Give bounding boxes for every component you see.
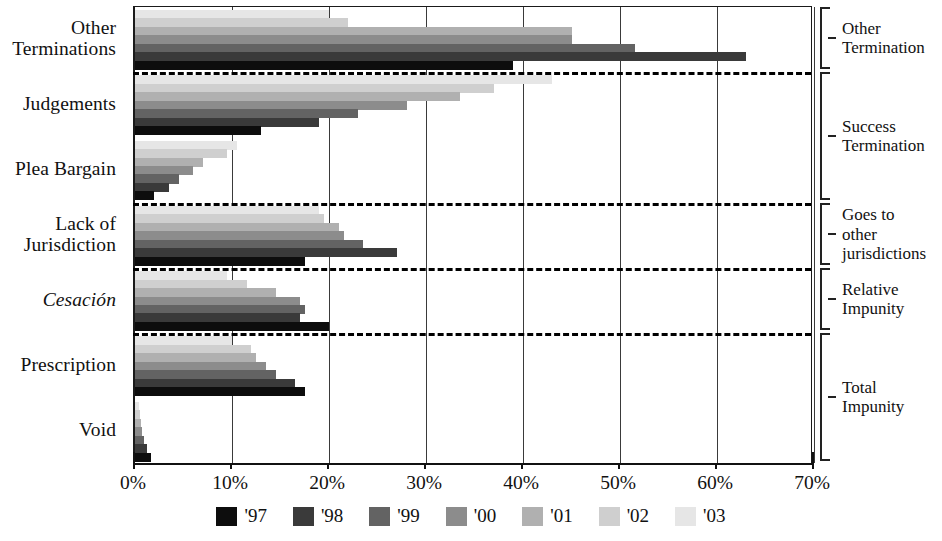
x-axis-line (133, 463, 814, 465)
legend-label: '98 (321, 505, 343, 527)
legend-item: '01 (522, 505, 572, 527)
x-axis-endcap (133, 452, 135, 465)
outcome-group: Other Termination (820, 7, 942, 69)
bar-group (135, 336, 811, 395)
x-tick-label: 50% (583, 472, 653, 494)
legend-item: '02 (599, 505, 649, 527)
outcome-group-label: Relative Impunity (842, 280, 904, 318)
x-tick (327, 463, 329, 469)
bracket-tick-icon (828, 37, 836, 39)
legend-swatch (599, 507, 620, 526)
bar-group (135, 141, 811, 200)
outcome-group-label: Goes to other jurisdictions (842, 205, 926, 262)
legend-swatch (293, 507, 314, 526)
outcome-group: Success Termination (820, 72, 942, 200)
legend-item: '03 (675, 505, 725, 527)
category-axis-labels: Other TerminationsJudgementsPlea Bargain… (0, 0, 124, 463)
bar-group (135, 271, 811, 330)
outcome-group: Relative Impunity (820, 268, 942, 330)
bar (135, 191, 154, 200)
x-tick-label: 60% (680, 472, 750, 494)
x-tick-label: 30% (389, 472, 459, 494)
bar (135, 257, 305, 266)
x-tick (715, 463, 717, 469)
bar-group (135, 10, 811, 69)
legend-swatch (216, 507, 237, 526)
x-tick-label: 70% (777, 472, 847, 494)
bar (135, 126, 261, 135)
legend-label: '02 (627, 505, 649, 527)
legend-item: '00 (446, 505, 496, 527)
bar (135, 387, 305, 396)
legend-label: '03 (703, 505, 725, 527)
bar (135, 61, 513, 70)
legend-label: '01 (550, 505, 572, 527)
bracket-tick-icon (828, 135, 836, 137)
bracket-tick-icon (828, 298, 836, 300)
x-tick-label: 10% (195, 472, 265, 494)
legend-label: '00 (474, 505, 496, 527)
legend-label: '97 (244, 505, 266, 527)
outcome-group: Total Impunity (820, 333, 942, 461)
plot-inner (135, 7, 811, 463)
outcome-group-label: Other Termination (842, 19, 925, 57)
legend-swatch (446, 507, 467, 526)
bracket-tick-icon (828, 233, 836, 235)
bracket-tick-icon (828, 396, 836, 398)
gridline-70 (814, 7, 815, 463)
plot-area (133, 6, 812, 463)
x-tick-label: 0% (98, 472, 168, 494)
bar-group (135, 206, 811, 265)
x-axis-endcap (812, 452, 814, 465)
category-label: Cesación (43, 289, 116, 311)
outcome-group-label: Total Impunity (842, 378, 904, 416)
x-tick-label: 40% (486, 472, 556, 494)
category-label: Prescription (21, 354, 116, 376)
outcome-group: Goes to other jurisdictions (820, 203, 942, 265)
category-label: Void (79, 419, 116, 441)
bar-group (135, 402, 811, 461)
category-label: Other Terminations (12, 17, 116, 61)
outcome-group-brackets: Other TerminationSuccess TerminationGoes… (820, 0, 942, 466)
x-tick (618, 463, 620, 469)
legend-swatch (522, 507, 543, 526)
legend-item: '98 (293, 505, 343, 527)
legend: '97'98'99'00'01'02'03 (0, 505, 942, 527)
legend-item: '99 (369, 505, 419, 527)
legend-label: '99 (397, 505, 419, 527)
x-tick-label: 20% (292, 472, 362, 494)
outcome-group-label: Success Termination (842, 117, 925, 155)
bar (135, 453, 151, 462)
bar (135, 322, 329, 331)
bar-chart: Other TerminationsJudgementsPlea Bargain… (0, 0, 942, 541)
legend-item: '97 (216, 505, 266, 527)
bar-group (135, 75, 811, 134)
category-label: Lack of Jurisdiction (24, 213, 116, 257)
category-label: Plea Bargain (15, 158, 116, 180)
category-label: Judgements (23, 93, 116, 115)
legend-swatch (675, 507, 696, 526)
x-tick (521, 463, 523, 469)
legend-swatch (369, 507, 390, 526)
x-tick (230, 463, 232, 469)
x-tick (424, 463, 426, 469)
